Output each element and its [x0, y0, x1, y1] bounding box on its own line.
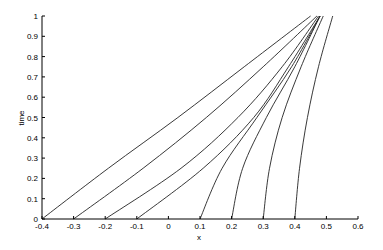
characteristic-curve — [137, 16, 320, 219]
characteristic-curve — [263, 16, 323, 219]
x-tick-label: 0.3 — [258, 222, 270, 231]
x-axis-label: x — [197, 233, 201, 242]
x-tick-label: 0.2 — [226, 222, 238, 231]
y-tick-label: 0.5 — [27, 114, 39, 123]
characteristic-curve — [200, 16, 320, 219]
characteristic-curve — [74, 16, 317, 219]
y-axis-label: time — [17, 110, 26, 126]
x-tick-label: -0.3 — [67, 222, 81, 231]
y-tick-label: 0.7 — [27, 73, 39, 82]
x-tick-label: 0 — [166, 222, 171, 231]
characteristic-curve — [295, 16, 333, 219]
x-tick-label: 0.1 — [194, 222, 206, 231]
y-tick-label: 0.6 — [27, 93, 39, 102]
characteristics-chart: 00.10.20.30.40.50.60.70.80.91 -0.4-0.3-0… — [0, 0, 383, 250]
y-tick-label: 0.4 — [27, 134, 39, 143]
x-tick-label: 0.5 — [321, 222, 333, 231]
x-tick-label: -0.2 — [98, 222, 112, 231]
y-tick-label: 0.1 — [27, 195, 39, 204]
y-tick-label: 0.2 — [27, 174, 39, 183]
x-tick-label: -0.4 — [35, 222, 49, 231]
y-tick-label: 1 — [34, 12, 39, 21]
x-tick-label: 0.6 — [352, 222, 364, 231]
characteristic-curve — [232, 16, 320, 219]
x-ticks: -0.4-0.3-0.2-0.100.10.20.30.40.50.6 — [35, 216, 364, 231]
y-tick-label: 0.9 — [27, 32, 39, 41]
curve-group — [42, 16, 333, 219]
x-tick-label: 0.4 — [289, 222, 301, 231]
y-tick-label: 0.8 — [27, 53, 39, 62]
y-tick-label: 0.3 — [27, 154, 39, 163]
characteristic-curve — [42, 16, 311, 219]
characteristic-curve — [105, 16, 318, 219]
x-tick-label: -0.1 — [130, 222, 144, 231]
